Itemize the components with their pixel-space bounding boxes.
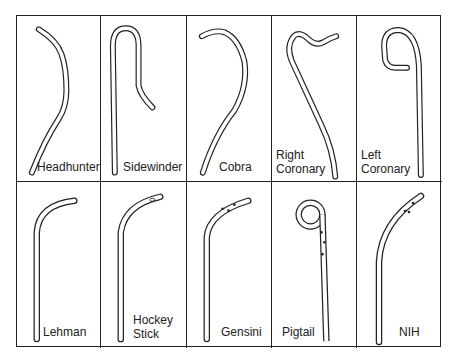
sidewinder-catheter-icon xyxy=(101,16,186,181)
label-nih: NIH xyxy=(399,325,420,339)
headhunter-catheter-icon xyxy=(17,16,100,181)
label-headhunter: Headhunter xyxy=(37,160,100,174)
label-left-coronary: Left Coronary xyxy=(361,148,410,176)
cobra-catheter-icon xyxy=(187,16,271,181)
cell-right-coronary: Right Coronary xyxy=(272,16,357,182)
cell-lehman: Lehman xyxy=(17,182,101,348)
label-hockey-stick: Hockey Stick xyxy=(133,313,173,341)
label-cobra: Cobra xyxy=(219,160,252,174)
label-right-coronary: Right Coronary xyxy=(276,148,325,176)
label-lehman: Lehman xyxy=(43,325,86,339)
label-sidewinder: Sidewinder xyxy=(123,160,182,174)
cell-nih: NIH xyxy=(357,182,442,348)
catheter-shapes-grid: Headhunter Sidewinder Cobra Right Corona… xyxy=(16,15,441,347)
cell-hockey-stick: Hockey Stick xyxy=(101,182,187,348)
pigtail-catheter-icon xyxy=(272,182,356,348)
cell-pigtail: Pigtail xyxy=(272,182,357,348)
cell-gensini: Gensini xyxy=(187,182,272,348)
cell-sidewinder: Sidewinder xyxy=(101,16,187,182)
nih-catheter-icon xyxy=(357,182,442,348)
cell-headhunter: Headhunter xyxy=(17,16,101,182)
cell-cobra: Cobra xyxy=(187,16,272,182)
gensini-catheter-icon xyxy=(187,182,271,348)
cell-left-coronary: Left Coronary xyxy=(357,16,442,182)
label-pigtail: Pigtail xyxy=(282,325,315,339)
lehman-catheter-icon xyxy=(17,182,100,348)
label-gensini: Gensini xyxy=(221,325,262,339)
